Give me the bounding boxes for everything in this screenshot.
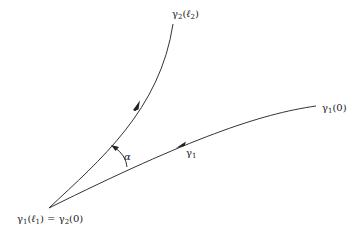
gamma1-start-label: γ1(0) (322, 102, 347, 115)
arrowhead-gamma2 (134, 100, 141, 111)
origin-label: γ1(ℓ1) = γ2(0) (17, 213, 83, 226)
curves-diagram: α γ1 γ1(0) γ2(ℓ2) γ1(ℓ1) = γ2(0) (0, 0, 354, 237)
curve-gamma1 (49, 106, 316, 208)
angle-alpha-label: α (124, 151, 131, 162)
gamma1-label: γ1 (186, 147, 196, 160)
gamma2-end-label: γ2(ℓ2) (172, 8, 199, 21)
curve-gamma2 (49, 24, 173, 208)
